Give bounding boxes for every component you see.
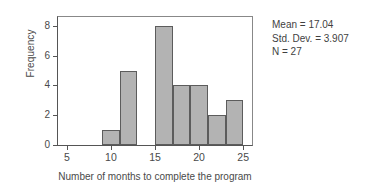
x-axis-tick-label: 25 [237,152,249,163]
y-axis-tick [53,115,58,116]
histogram-bar [208,115,226,145]
x-axis-tick-label: 15 [149,152,161,163]
x-axis-tick-label: 20 [193,152,205,163]
x-axis-tick-label: 10 [105,152,117,163]
x-axis-tick [111,145,112,150]
x-axis-tick [243,145,244,150]
y-axis-tick [53,56,58,57]
y-axis-tick [53,145,58,146]
histogram-bar [173,85,191,145]
y-axis-title: Frequency [25,4,36,104]
y-axis-tick-label: 2 [44,110,50,120]
y-axis-tick [53,85,58,86]
x-axis-tick [155,145,156,150]
plot-area: 02468510152025 [57,16,253,146]
stat-std-dev: Std. Dev. = 3.907 [272,32,349,46]
x-axis-tick [67,145,68,150]
stats-annotation: Mean = 17.04 Std. Dev. = 3.907 N = 27 [272,18,349,59]
y-axis-tick-label: 4 [44,80,50,90]
bar-series [58,17,252,145]
stat-mean: Mean = 17.04 [272,18,349,32]
histogram-bar [226,100,244,145]
x-axis-tick [199,145,200,150]
histogram-bar [155,26,173,145]
y-axis-tick [53,26,58,27]
histogram-bar [190,85,208,145]
x-axis-title: Number of months to complete the program [57,171,253,182]
y-axis-tick-label: 6 [44,51,50,61]
histogram-figure: Frequency 02468510152025 Number of month… [0,0,376,194]
histogram-bar [102,130,120,145]
histogram-bar [120,71,138,145]
y-axis-tick-label: 0 [44,140,50,150]
y-axis-tick-label: 8 [44,21,50,31]
x-axis-tick-label: 5 [64,152,70,163]
stat-n: N = 27 [272,45,349,59]
